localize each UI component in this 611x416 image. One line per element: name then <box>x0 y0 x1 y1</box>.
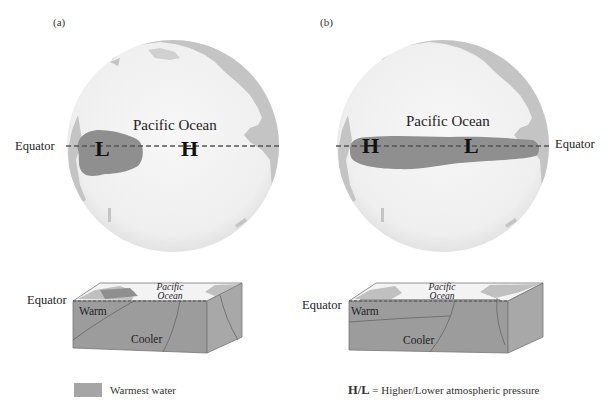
ocean-label-a: Pacific Ocean <box>133 117 217 134</box>
cooler-label-b: Cooler <box>403 334 434 346</box>
high-pressure-label-b: H <box>362 133 379 159</box>
cooler-label-a: Cooler <box>131 333 162 345</box>
pressure-key-text: = Higher/Lower atmospheric pressure <box>370 384 540 396</box>
low-pressure-label-a: L <box>95 136 110 162</box>
equator-label-a: Equator <box>15 139 55 154</box>
warm-label-a: Warm <box>79 305 107 317</box>
block-ocean-label-b: Pacific Ocean <box>420 283 464 301</box>
block-ocean-line2-b: Ocean <box>420 292 464 301</box>
equator-label-b: Equator <box>555 137 595 152</box>
block-ocean-line2-a: Ocean <box>150 292 190 301</box>
ocean-label-b: Pacific Ocean <box>406 113 490 130</box>
warm-label-b: Warm <box>351 305 379 317</box>
warmest-water-legend-label: Warmest water <box>110 384 176 396</box>
pressure-key-bold: H/L <box>348 383 370 397</box>
high-pressure-label-a: H <box>181 136 198 162</box>
panel-label-b: (b) <box>320 16 333 28</box>
panel-label-a: (a) <box>53 16 65 28</box>
low-pressure-label-b: L <box>464 133 479 159</box>
block-equator-label-a: Equator <box>27 293 67 308</box>
pressure-key: H/L = Higher/Lower atmospheric pressure <box>348 383 539 398</box>
block-equator-label-b: Equator <box>302 298 342 313</box>
warmest-water-swatch <box>74 383 102 397</box>
diagram-artwork <box>0 0 611 416</box>
block-ocean-label-a: Pacific Ocean <box>150 283 190 301</box>
